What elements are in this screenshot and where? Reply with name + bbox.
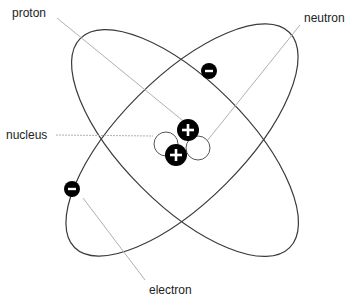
electron-leader-line	[83, 198, 145, 280]
nucleus-label: nucleus	[6, 128, 47, 142]
neutron-label: neutron	[304, 11, 345, 25]
proton-label: proton	[12, 6, 46, 20]
neutron-leader-line	[203, 25, 300, 146]
atom-diagram	[0, 0, 352, 305]
electron-particle-1	[201, 63, 217, 79]
orbit-ellipse-1	[37, 0, 334, 291]
nucleus-leader-line	[56, 135, 153, 136]
proton-particle-2	[165, 144, 187, 166]
electron-particle-2	[64, 181, 80, 197]
proton-leader-line	[57, 18, 182, 120]
proton-particle-1	[177, 119, 199, 141]
electron-label: electron	[149, 283, 192, 297]
